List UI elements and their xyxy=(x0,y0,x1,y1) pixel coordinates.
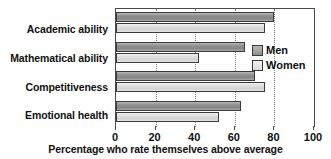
bar-women-2 xyxy=(116,82,265,92)
bar-men-3 xyxy=(116,101,241,111)
y-axis-label-0: Academic ability xyxy=(0,24,108,35)
y-axis-label-1: Mathematical ability xyxy=(0,53,108,64)
bar-women-3 xyxy=(116,112,219,122)
x-axis-tick-label-60: 60 xyxy=(228,131,240,143)
bar-women-1 xyxy=(116,53,199,63)
x-axis-tick-100 xyxy=(313,126,314,130)
bar-chart: Academic ability Mathematical ability Co… xyxy=(0,0,331,159)
legend-swatch-women-icon xyxy=(252,60,263,71)
y-axis-label-3: Emotional health xyxy=(0,110,108,121)
bar-men-0 xyxy=(116,12,274,22)
x-axis-tick-60 xyxy=(234,126,235,130)
x-axis-tick-20 xyxy=(155,126,156,130)
x-axis-title: Percentage who rate themselves above ave… xyxy=(0,143,331,155)
x-axis-tick-80 xyxy=(273,126,274,130)
legend-label-women: Women xyxy=(266,59,306,71)
legend-swatch-men-icon xyxy=(252,45,263,56)
legend-label-men: Men xyxy=(266,44,288,56)
legend: Men Women xyxy=(252,43,324,73)
x-axis-tick-label-40: 40 xyxy=(188,131,200,143)
x-axis-tick-label-0: 0 xyxy=(112,131,118,143)
bar-men-1 xyxy=(116,42,245,52)
x-axis-tick-label-20: 20 xyxy=(148,131,160,143)
bar-women-0 xyxy=(116,23,265,33)
x-axis-tick-0 xyxy=(115,126,116,130)
x-axis-tick-40 xyxy=(194,126,195,130)
y-axis-label-2: Competitiveness xyxy=(0,82,108,93)
legend-item-women: Women xyxy=(252,58,324,72)
x-axis-tick-label-80: 80 xyxy=(267,131,279,143)
bar-men-2 xyxy=(116,71,255,81)
legend-item-men: Men xyxy=(252,43,324,57)
x-axis-tick-label-100: 100 xyxy=(304,131,322,143)
y-axis-category-labels: Academic ability Mathematical ability Co… xyxy=(0,8,112,128)
